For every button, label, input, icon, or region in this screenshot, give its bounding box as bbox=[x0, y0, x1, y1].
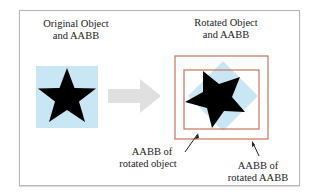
aabb-aabb-label-line1: AABB of bbox=[218, 160, 298, 172]
aabb-object-label-line2: rotated object bbox=[108, 158, 188, 170]
object-pointer-arrowhead-icon bbox=[195, 133, 199, 139]
transform-arrow-icon bbox=[108, 79, 161, 113]
aabb-aabb-label-line2: rotated AABB bbox=[218, 172, 298, 184]
aabb-object-label-line1: AABB of bbox=[108, 146, 188, 158]
aabb-object-label: AABB of rotated object bbox=[108, 146, 188, 170]
aabb-aabb-label: AABB of rotated AABB bbox=[218, 160, 298, 184]
